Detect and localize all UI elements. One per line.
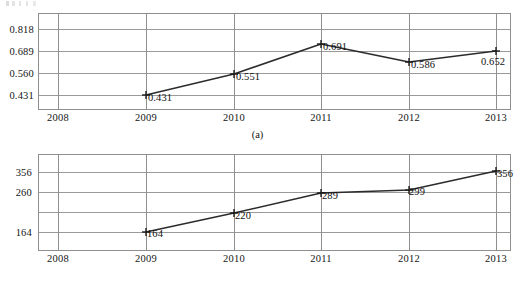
data-label-a-2009: 0.431 [148,92,172,103]
y-tick-label-a-0431: 0.431 [0,90,34,101]
data-label-a-2013: 0.652 [481,56,505,67]
x-tick-label-a-2011: 2011 [301,112,341,124]
x-tick-label-a-2008: 2008 [38,112,78,124]
x-tick-label-b-2008: 2008 [38,253,78,265]
data-label-a-2011: 0.691 [323,41,347,52]
x-tick-label-b-2010: 2010 [214,253,254,265]
y-tick-label-b-164: 164 [4,227,32,238]
y-tick-label-b-260: 260 [4,187,32,198]
x-tick-label-b-2011: 2011 [301,253,341,265]
data-label-a-2012: 0.586 [411,59,435,70]
x-tick-label-b-2013: 2013 [476,253,516,265]
data-label-b-2010: 220 [235,210,251,221]
x-tick-label-b-2009: 2009 [126,253,166,265]
y-tick-label-a-0689: 0.689 [0,46,34,57]
horizontal-gridlines-b [39,173,511,233]
plot-area-a: 0.818 0.689 0.560 0.431 0.431 0.551 0.69… [0,0,521,122]
y-tick-label-a-0560: 0.560 [0,68,34,79]
x-tick-label-a-2009: 2009 [126,112,166,124]
horizontal-gridlines-a [39,30,511,96]
x-tick-label-b-2012: 2012 [389,253,429,265]
plot-area-b: 356 260 164 164 220 289 299 356 2008 200… [0,146,521,268]
data-label-a-2010: 0.551 [236,71,260,82]
chart-b-canvas [0,146,521,268]
data-label-b-2011: 289 [322,190,338,201]
figure-caption-a: (a) [0,129,521,141]
y-tick-label-a-0818: 0.818 [0,24,34,35]
figure-a: 0.818 0.689 0.560 0.431 0.431 0.551 0.69… [0,0,521,146]
x-tick-label-a-2010: 2010 [214,112,254,124]
plot-frame-b [39,155,511,251]
x-tick-label-a-2013: 2013 [476,112,516,124]
x-tick-label-a-2012: 2012 [389,112,429,124]
y-tick-label-b-356: 356 [4,167,32,178]
chart-a-canvas [0,0,521,122]
figure-b: 356 260 164 164 220 289 299 356 2008 200… [0,146,521,292]
data-label-b-2013: 356 [497,168,513,179]
figure-caption-a-text: (a) [252,129,264,141]
data-label-b-2012: 299 [409,186,425,197]
data-label-b-2009: 164 [147,228,163,239]
